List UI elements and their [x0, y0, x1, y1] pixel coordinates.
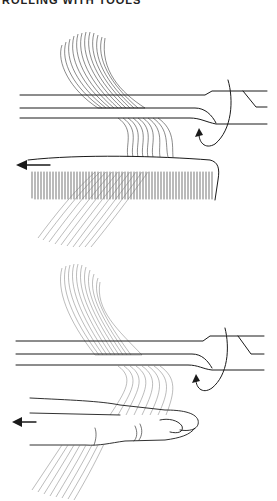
rotation-arrow-icon	[195, 80, 231, 146]
comb	[28, 156, 219, 200]
hair-strand-lower	[38, 172, 148, 247]
curling-iron	[20, 91, 267, 124]
figure-comb	[0, 0, 277, 250]
pull-left-arrow-icon	[12, 417, 36, 427]
rotation-arrow-icon	[192, 328, 227, 391]
hair-strand-lower	[32, 444, 104, 500]
pull-left-arrow-icon	[16, 160, 50, 170]
figure-fingers	[0, 250, 277, 501]
hair-strand-upper	[60, 264, 172, 415]
fingers	[30, 398, 198, 445]
